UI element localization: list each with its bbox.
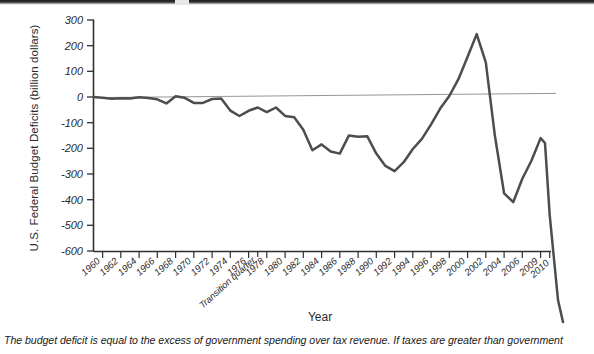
x-tick-label: 1998 — [425, 255, 449, 278]
y-tick-label: 200 — [64, 40, 84, 52]
x-tick-label: 1966 — [133, 255, 157, 278]
budget-deficit-figure: 300 200 100 0 -100 -200 -300 -400 -500 -… — [0, 0, 594, 354]
x-tick-label: 1990 — [352, 255, 376, 278]
y-tick-labels: 300 200 100 0 -100 -200 -300 -400 -500 -… — [61, 14, 84, 257]
y-tick-label: -600 — [61, 245, 84, 257]
x-tick-label: 2006 — [498, 255, 522, 279]
x-tick-label: 1996 — [407, 255, 431, 278]
x-tick-label: 1962 — [97, 255, 121, 278]
x-tick-label: 1960 — [79, 255, 103, 278]
x-tick-label: 2004 — [479, 255, 503, 278]
x-tick-labels: 1960 1962 1964 1966 1968 1970 1972 1974 … — [79, 254, 552, 310]
deficit-series-line — [94, 34, 564, 322]
x-tick-label: 1968 — [152, 255, 176, 278]
y-tick-label: -400 — [61, 194, 84, 206]
y-tick-label: -100 — [61, 117, 84, 129]
y-tick-label: 100 — [65, 65, 84, 77]
y-tick-label: -200 — [61, 142, 84, 154]
y-tick-label: 0 — [77, 91, 84, 103]
x-tick-label: 1964 — [115, 255, 138, 277]
x-tick-label: 1994 — [389, 255, 412, 277]
x-tick-label: 1988 — [334, 255, 358, 278]
y-axis-title: U.S. Federal Budget Deficits (billion do… — [28, 18, 40, 258]
x-tick-label: 1974 — [206, 255, 229, 277]
x-tick-label: 1992 — [371, 255, 395, 278]
x-tick-label: 1970 — [170, 255, 194, 278]
y-tick-label: -500 — [61, 219, 84, 231]
zero-reference-line — [94, 93, 557, 97]
x-tick-label: 1984 — [298, 255, 321, 277]
x-tick-label: 1986 — [316, 255, 340, 278]
x-tick-label: 2002 — [461, 255, 485, 279]
x-tick-label: 1972 — [188, 255, 212, 278]
x-tick-label: 1980 — [261, 255, 285, 278]
y-tick-label: 300 — [65, 14, 84, 26]
figure-caption: The budget deficit is equal to the exces… — [4, 334, 594, 346]
line-chart-canvas: 300 200 100 0 -100 -200 -300 -400 -500 -… — [0, 0, 594, 354]
x-axis-title: Year — [0, 310, 594, 324]
x-tick-label: 1982 — [279, 255, 303, 278]
y-tick-label: -300 — [61, 168, 84, 180]
